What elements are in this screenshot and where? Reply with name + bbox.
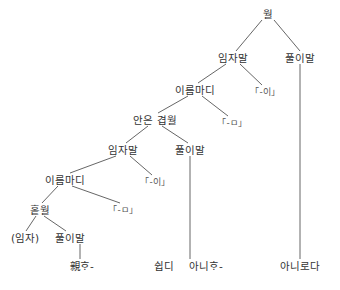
node-noun-clause-1: 이름마디 xyxy=(175,85,215,96)
leaf-2: 쉽디 xyxy=(154,261,174,272)
node-marker-m-2: 「-ㅁ」 xyxy=(108,206,137,215)
node-predicate-2: 풀이말 xyxy=(175,145,205,156)
node-marker-i-1: 「-이」 xyxy=(250,88,279,97)
node-subject-1: 임자말 xyxy=(218,53,248,64)
leaf-3: 아니ᄒᆞ- xyxy=(189,261,223,272)
node-marker-m-1: 「-ㅁ」 xyxy=(217,119,246,128)
node-marker-i-2: 「-이」 xyxy=(140,178,169,187)
tree-edges xyxy=(0,0,340,290)
leaf-4: 아니로다 xyxy=(280,261,320,272)
node-predicate-3: 풀이말 xyxy=(55,233,85,244)
node-complex-sentence: 안은 겹월 xyxy=(133,115,176,126)
node-simple-sentence: 홑월 xyxy=(30,205,50,216)
node-subject-3: (임자) xyxy=(11,233,39,244)
node-root: 월 xyxy=(263,9,273,20)
node-noun-clause-2: 이름마디 xyxy=(45,175,85,186)
leaf-1: 親ᄒᆞ- xyxy=(70,261,94,272)
node-subject-2: 임자말 xyxy=(108,145,138,156)
node-predicate-1: 풀이말 xyxy=(285,53,315,64)
